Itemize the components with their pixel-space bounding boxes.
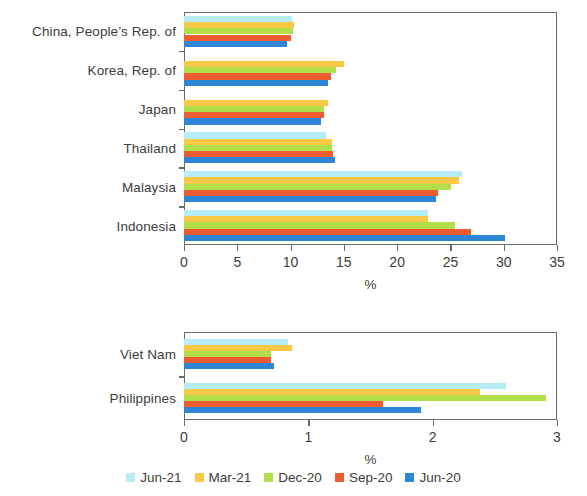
x-axis-title: %	[364, 277, 376, 292]
legend-item: Sep-20	[335, 470, 393, 485]
legend-item: Mar-21	[195, 470, 252, 485]
bar	[184, 196, 436, 202]
bar-group	[184, 55, 557, 86]
category-label: Philippines	[110, 391, 176, 406]
bar	[184, 407, 421, 413]
bar	[184, 157, 335, 163]
legend-label: Jun-20	[419, 470, 460, 485]
legend-item: Jun-20	[405, 470, 460, 485]
bar-group	[184, 383, 557, 414]
x-tick	[397, 245, 398, 251]
x-tick	[344, 245, 345, 251]
y-tick	[179, 206, 184, 208]
y-tick	[179, 376, 184, 378]
bar	[184, 363, 274, 369]
legend-label: Sep-20	[349, 470, 393, 485]
legend-label: Jun-21	[140, 470, 181, 485]
bottom-panel: Viet NamPhilippines 0123%	[0, 300, 587, 470]
top-category-labels: China, People’s Rep. ofKorea, Rep. ofJap…	[0, 12, 176, 245]
x-tick	[291, 245, 292, 251]
legend-item: Dec-20	[264, 470, 322, 485]
x-tick-label: 30	[496, 254, 512, 270]
x-tick	[504, 245, 505, 251]
bar-group	[184, 132, 557, 163]
bar	[184, 118, 321, 124]
x-tick-label: 0	[180, 429, 188, 445]
bar-group	[184, 339, 557, 370]
bar	[184, 80, 328, 86]
category-label: Indonesia	[117, 218, 176, 233]
x-tick-label: 25	[443, 254, 459, 270]
bar-group	[184, 210, 557, 241]
category-label: China, People’s Rep. of	[32, 24, 176, 39]
x-tick-label: 2	[429, 429, 437, 445]
x-tick-label: 10	[283, 254, 299, 270]
legend-label: Mar-21	[209, 470, 252, 485]
top-panel: China, People’s Rep. ofKorea, Rep. ofJap…	[0, 0, 587, 300]
x-tick	[557, 420, 558, 426]
x-axis-title: %	[364, 452, 376, 467]
y-tick	[179, 51, 184, 53]
x-tick-label: 0	[180, 254, 188, 270]
x-tick	[450, 245, 451, 251]
x-tick	[433, 420, 434, 426]
bar-group	[184, 94, 557, 125]
category-label: Malaysia	[122, 179, 176, 194]
x-tick-label: 5	[233, 254, 241, 270]
x-tick-label: 20	[389, 254, 405, 270]
bar	[184, 235, 505, 241]
legend-swatch	[195, 473, 204, 482]
x-tick	[184, 245, 185, 251]
bar	[184, 41, 287, 47]
x-tick-label: 3	[553, 429, 561, 445]
x-tick	[308, 420, 309, 426]
category-label: Viet Nam	[120, 347, 176, 362]
category-label: Korea, Rep. of	[88, 63, 176, 78]
legend-label: Dec-20	[278, 470, 322, 485]
x-tick-label: 35	[549, 254, 565, 270]
legend-swatch	[335, 473, 344, 482]
y-tick	[179, 90, 184, 92]
x-tick-label: 15	[336, 254, 352, 270]
bar-group	[184, 16, 557, 47]
x-tick-label: 1	[304, 429, 312, 445]
bar-group	[184, 171, 557, 202]
category-label: Thailand	[123, 140, 176, 155]
y-tick	[179, 129, 184, 131]
legend-swatch	[126, 473, 135, 482]
bottom-category-labels: Viet NamPhilippines	[0, 332, 176, 420]
legend-swatch	[405, 473, 414, 482]
y-tick	[179, 167, 184, 169]
chart-legend: Jun-21Mar-21Dec-20Sep-20Jun-20	[0, 470, 587, 485]
x-tick	[184, 420, 185, 426]
x-tick	[557, 245, 558, 251]
legend-swatch	[264, 473, 273, 482]
x-tick	[237, 245, 238, 251]
chart-figure: China, People’s Rep. ofKorea, Rep. ofJap…	[0, 0, 587, 496]
category-label: Japan	[139, 102, 176, 117]
legend-item: Jun-21	[126, 470, 181, 485]
